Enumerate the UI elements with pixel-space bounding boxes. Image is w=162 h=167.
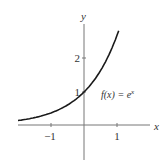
exponential-function-chart: −1 1 1 2 x y f(x) = ex — [0, 0, 162, 167]
function-label-main: f(x) = e — [101, 89, 132, 101]
function-label: f(x) = ex — [101, 88, 135, 101]
y-tick-label-2: 2 — [75, 52, 81, 64]
x-axis-label: x — [153, 120, 159, 132]
exp-curve — [18, 31, 119, 121]
x-tick-label-neg1: −1 — [44, 130, 56, 142]
y-axis-label: y — [80, 10, 86, 22]
function-label-exponent: x — [130, 88, 135, 96]
x-tick-label-1: 1 — [114, 130, 120, 142]
